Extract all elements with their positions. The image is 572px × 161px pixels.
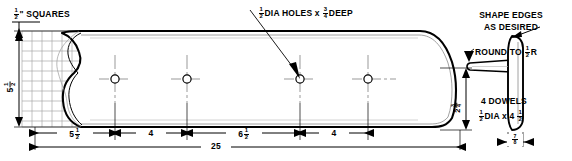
dim-neck-whole: 2 (453, 108, 462, 112)
dim-seg3-whole: 6 (238, 129, 243, 139)
shape-edges-note-line1: SHAPE EDGES (470, 11, 552, 20)
dim-seg1-whole: 5 (69, 129, 74, 139)
round-note-post: R (531, 47, 537, 57)
shape-edges-note-line2: AS DESIRED (470, 23, 552, 32)
grid-squares-note: 1 2 " SQUARES (13, 8, 70, 21)
dim-label-seg-4: 4 (319, 129, 349, 138)
dowel-dia-fraction: 1 2 (479, 110, 485, 123)
dowels-note-line2: 1 2 DIA x 4 1 2 (478, 110, 524, 123)
hole-note-post: DEEP (329, 8, 353, 18)
round-note-pre: ROUND TO (475, 47, 522, 57)
dim-height-whole: 5 (5, 88, 15, 93)
dim-label-overall: 25 (201, 142, 231, 151)
dim-label-height-left: 5 1 2 (4, 64, 17, 92)
round-note: ROUND TO 1 2 R (475, 46, 537, 59)
dim-label-seg-3: 6 1 2 (226, 128, 262, 141)
dowels-note-mid: DIA x 4 (485, 111, 515, 121)
dim-neck-fraction: 3 4 (451, 103, 463, 108)
grid-squares-fraction: 1 2 (14, 8, 20, 21)
dim-thickness-fraction: 7 8 (512, 134, 517, 146)
dim-label-thickness: 7 8 (507, 134, 523, 146)
dim-label-neck-height: 2 3 4 (451, 87, 463, 113)
grid-squares-label: SQUARES (26, 9, 69, 19)
hole-note-mid: DIA HOLES x (265, 8, 320, 18)
hole-dia-fraction: 1 2 (259, 7, 265, 20)
grid-squares-unit: " (20, 9, 24, 19)
dim-seg1-fraction: 1 2 (75, 128, 81, 141)
dim-height-fraction: 1 2 (4, 82, 17, 88)
dim-seg3-fraction: 1 2 (244, 128, 250, 141)
hole-note: 1 2 DIA HOLES x 3 4 DEEP (258, 7, 353, 20)
technical-drawing: 1 2 " SQUARES 1 2 DIA HOLES x 3 4 DEEP S… (0, 0, 572, 161)
round-note-leader (464, 49, 474, 62)
dowel-length-fraction: 1 2 (517, 110, 523, 123)
dim-label-seg-2: 4 (136, 129, 166, 138)
dim-label-seg-1: 5 1 2 (57, 128, 93, 141)
hole-depth-fraction: 3 4 (323, 7, 329, 20)
dowels-note-line1: 4 DOWELS (481, 97, 527, 106)
squares-note-leader (12, 22, 40, 38)
round-radius-fraction: 1 2 (525, 46, 531, 59)
